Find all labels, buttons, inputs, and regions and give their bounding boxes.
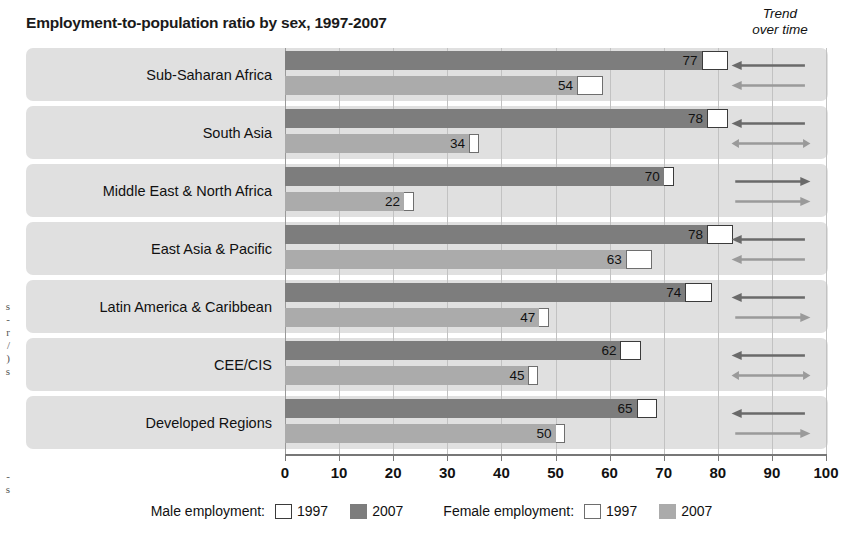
bar-2007-male — [285, 167, 664, 186]
bar-value-label-male: 77 — [676, 51, 698, 70]
x-axis-tick-label: 20 — [373, 464, 413, 481]
edge-bleed-glyph: s — [0, 300, 10, 313]
category-label: Latin America & Caribbean — [30, 280, 278, 333]
bar-2007-female — [285, 134, 469, 153]
trend-arrow-female-no-change-icon — [728, 370, 814, 381]
bar-2007-female — [285, 308, 539, 327]
legend-group-male: Male employment: 1997 2007 — [151, 503, 404, 519]
trend-arrow-male-increase-icon — [728, 176, 814, 187]
bar-value-label-male: 65 — [611, 399, 633, 418]
bar-2007-female — [285, 366, 528, 385]
bar-marker-1997-female — [528, 366, 538, 385]
x-axis-tick — [393, 454, 394, 461]
x-axis-tick-label: 30 — [427, 464, 467, 481]
trend-arrow-female-decrease-icon — [728, 254, 814, 265]
x-axis-tick-label: 50 — [536, 464, 576, 481]
x-axis-tick-label: 0 — [265, 464, 305, 481]
x-axis-tick — [447, 454, 448, 461]
bar-marker-1997-female — [626, 250, 652, 269]
legend-female-title: Female employment: — [443, 503, 574, 519]
bar-2007-female — [285, 424, 556, 443]
trend-arrow-male-decrease-icon — [728, 350, 814, 361]
bar-value-label-female: 45 — [502, 366, 524, 385]
x-axis-tick — [339, 454, 340, 461]
legend-item-female-1997: 1997 — [584, 503, 637, 519]
legend-swatch-female-1997 — [584, 504, 601, 519]
bar-value-label-male: 78 — [681, 225, 703, 244]
x-axis-tick — [501, 454, 502, 461]
x-axis-tick-label: 80 — [698, 464, 738, 481]
bar-value-label-female: 54 — [551, 76, 573, 95]
bar-value-label-male: 62 — [594, 341, 616, 360]
category-label: East Asia & Pacific — [30, 222, 278, 275]
legend-swatch-female-2007 — [659, 504, 676, 519]
bar-2007-male — [285, 341, 620, 360]
x-axis-tick — [285, 454, 286, 461]
bar-value-label-male: 70 — [638, 167, 660, 186]
x-axis-tick-label: 60 — [590, 464, 630, 481]
bar-value-label-male: 74 — [659, 283, 681, 302]
trend-cell — [710, 48, 830, 101]
legend-label-female-2007: 2007 — [681, 503, 712, 519]
page-edge-bleed-text-upper: s-r/)s — [0, 300, 10, 378]
edge-bleed-glyph: s — [0, 365, 10, 378]
x-axis-tick-label: 70 — [644, 464, 684, 481]
x-axis-tick-label: 100 — [806, 464, 846, 481]
category-label: Sub-Saharan Africa — [30, 48, 278, 101]
legend-item-male-1997: 1997 — [275, 503, 328, 519]
chart-legend: Male employment: 1997 2007 Female employ… — [0, 494, 863, 528]
bar-2007-male — [285, 399, 637, 418]
trend-arrow-male-decrease-icon — [728, 118, 814, 129]
bar-value-label-female: 63 — [600, 250, 622, 269]
bar-marker-1997-male — [685, 283, 711, 302]
bar-2007-male — [285, 51, 702, 70]
category-label: South Asia — [30, 106, 278, 159]
x-axis-tick — [664, 454, 665, 461]
trend-arrow-male-decrease-icon — [728, 292, 814, 303]
trend-arrow-male-decrease-icon — [728, 234, 814, 245]
legend-item-female-2007: 2007 — [659, 503, 712, 519]
x-axis-tick-label: 90 — [752, 464, 792, 481]
legend-group-female: Female employment: 1997 2007 — [443, 503, 712, 519]
bar-2007-female — [285, 250, 626, 269]
bar-value-label-female: 47 — [513, 308, 535, 327]
x-axis-tick — [718, 454, 719, 461]
trend-cell — [710, 222, 830, 275]
trend-arrow-female-no-change-icon — [728, 138, 814, 149]
trend-cell — [710, 106, 830, 159]
trend-arrow-female-increase-icon — [728, 196, 814, 207]
trend-arrow-male-decrease-icon — [728, 408, 814, 419]
edge-bleed-glyph: - — [0, 313, 10, 326]
legend-swatch-male-1997 — [275, 504, 292, 519]
chart-plot-area: 7754783470227863744762456550 Sub-Saharan… — [0, 0, 863, 540]
trend-cell — [710, 338, 830, 391]
bar-2007-male — [285, 283, 685, 302]
page-edge-bleed-text-lower: -s — [0, 470, 10, 496]
category-label: Middle East & North Africa — [30, 164, 278, 217]
legend-label-male-1997: 1997 — [297, 503, 328, 519]
bar-value-label-male: 78 — [681, 109, 703, 128]
bar-value-label-female: 22 — [378, 192, 400, 211]
trend-cell — [710, 396, 830, 449]
bar-marker-1997-male — [620, 341, 641, 360]
legend-label-male-2007: 2007 — [372, 503, 403, 519]
edge-bleed-glyph: s — [0, 483, 10, 496]
bar-2007-female — [285, 76, 577, 95]
trend-arrow-male-decrease-icon — [728, 60, 814, 71]
category-label: Developed Regions — [30, 396, 278, 449]
x-axis-tick — [772, 454, 773, 461]
bar-value-label-female: 50 — [530, 424, 552, 443]
trend-cell — [710, 164, 830, 217]
bar-2007-male — [285, 225, 707, 244]
x-axis-tick — [556, 454, 557, 461]
trend-cell — [710, 280, 830, 333]
bar-marker-1997-female — [469, 134, 479, 153]
category-label: CEE/CIS — [30, 338, 278, 391]
bar-2007-male — [285, 109, 707, 128]
edge-bleed-glyph: r — [0, 326, 10, 339]
trend-arrow-female-increase-icon — [728, 428, 814, 439]
x-axis-tick — [826, 454, 827, 461]
trend-arrow-female-decrease-icon — [728, 80, 814, 91]
bar-marker-1997-female — [577, 76, 603, 95]
x-axis-tick — [610, 454, 611, 461]
